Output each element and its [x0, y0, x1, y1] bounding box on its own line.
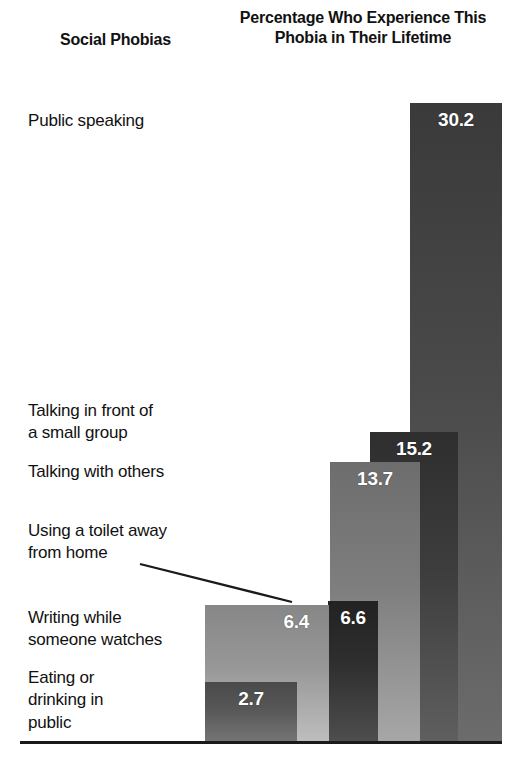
bar-eating-drinking: 2.7 [205, 682, 297, 742]
bar-value-using-toilet: 6.6 [328, 607, 378, 629]
bar-value-public-speaking: 30.2 [410, 109, 502, 131]
bar-value-small-group: 15.2 [370, 438, 458, 460]
bar-value-writing: 6.4 [205, 611, 329, 633]
bar-value-eating-drinking: 2.7 [205, 688, 297, 710]
x-axis-baseline [20, 741, 502, 744]
bar-using-toilet: 6.6 [328, 601, 378, 742]
plot-area: 30.2 15.2 13.7 6.6 6.4 2.7 [0, 0, 520, 761]
chart-figure: Social Phobias Percentage Who Experience… [0, 0, 520, 761]
bar-value-talking-with-others: 13.7 [330, 468, 420, 490]
